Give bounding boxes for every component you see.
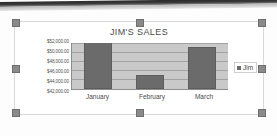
y-axis-tick: $48,000.00	[47, 59, 69, 64]
y-axis-tick: $46,000.00	[47, 69, 69, 74]
chart-object[interactable]: JIM'S SALES $52,000.00 $50,000.00 $48,00…	[14, 21, 264, 115]
plot-wrapper	[71, 43, 228, 90]
y-axis-tick: $44,000.00	[47, 79, 69, 84]
resize-handle-middle-left[interactable]	[12, 65, 20, 73]
chart-title: JIM'S SALES	[15, 27, 263, 37]
bar-march[interactable]	[188, 47, 216, 89]
resize-handle-top-center[interactable]	[136, 19, 144, 27]
resize-handle-middle-right[interactable]	[258, 65, 266, 73]
resize-handle-top-left[interactable]	[12, 19, 20, 27]
plot-area	[71, 43, 228, 90]
chart-legend[interactable]: Jim	[234, 62, 257, 73]
screenshot-canvas: JIM'S SALES $52,000.00 $50,000.00 $48,00…	[0, 0, 277, 136]
bar-february[interactable]	[136, 75, 164, 89]
resize-handle-bottom-left[interactable]	[12, 109, 20, 117]
y-axis-tick: $52,000.00	[47, 39, 69, 44]
bar-january[interactable]	[84, 43, 112, 89]
y-axis-tick: $50,000.00	[47, 49, 69, 54]
resize-handle-bottom-center[interactable]	[136, 109, 144, 117]
x-axis-labels: January February March	[71, 93, 228, 100]
resize-handle-bottom-right[interactable]	[258, 109, 266, 117]
resize-handle-top-right[interactable]	[258, 19, 266, 27]
x-axis-tick: March	[195, 93, 213, 100]
bar-series-jim	[72, 43, 228, 89]
legend-label: Jim	[243, 64, 253, 71]
y-axis-tick: $42,000.00	[47, 89, 69, 94]
x-axis-tick: January	[86, 93, 109, 100]
legend-swatch-icon	[237, 66, 241, 70]
y-axis-labels: $52,000.00 $50,000.00 $48,000.00 $46,000…	[21, 39, 69, 94]
x-axis-tick: February	[139, 93, 165, 100]
